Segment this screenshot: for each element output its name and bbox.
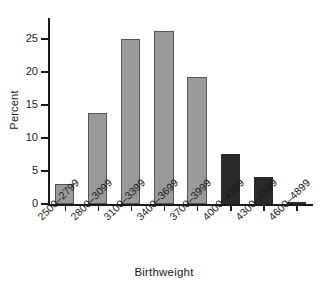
x-tick [263, 206, 264, 211]
y-tick-label: 10 [2, 132, 38, 143]
x-tick [98, 206, 99, 211]
x-tick [197, 206, 198, 211]
y-tick [41, 137, 48, 138]
y-tick [41, 71, 48, 72]
y-tick [41, 170, 48, 171]
y-tick-label: 5 [2, 165, 38, 176]
bar-chart: Percent 0510152025 2500–27992800–3099310… [0, 0, 328, 289]
y-tick-label: 15 [2, 99, 38, 110]
x-tick [230, 206, 231, 211]
x-tick [164, 206, 165, 211]
y-tick-label: 0 [2, 198, 38, 209]
y-tick [41, 104, 48, 105]
x-axis-title: Birthweight [0, 266, 328, 278]
bars-container [48, 18, 313, 204]
y-tick-label: 25 [2, 33, 38, 44]
x-tick [131, 206, 132, 211]
x-tick [65, 206, 66, 211]
x-tick [296, 206, 297, 211]
y-tick [41, 38, 48, 39]
y-tick-label: 20 [2, 66, 38, 77]
